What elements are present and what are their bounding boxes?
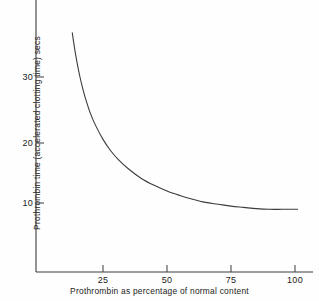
plot-area: 30 20 10 25 50 75 100 bbox=[0, 0, 319, 301]
x-tick-label-75: 75 bbox=[226, 275, 237, 285]
data-curve-series-0 bbox=[72, 33, 297, 209]
x-tick-label-25: 25 bbox=[98, 275, 109, 285]
x-tick-label-50: 50 bbox=[162, 275, 173, 285]
y-tick-label-10: 10 bbox=[22, 198, 33, 208]
x-tick-label-100: 100 bbox=[287, 275, 303, 285]
x-tick-group: 25 50 75 100 bbox=[98, 265, 303, 285]
y-tick-group: 30 20 10 bbox=[22, 72, 44, 208]
y-tick-label-30: 30 bbox=[22, 72, 33, 82]
y-tick-label-20: 20 bbox=[22, 138, 33, 148]
prothrombin-time-figure: Prothrombin time (accelerated clotting t… bbox=[0, 0, 319, 301]
